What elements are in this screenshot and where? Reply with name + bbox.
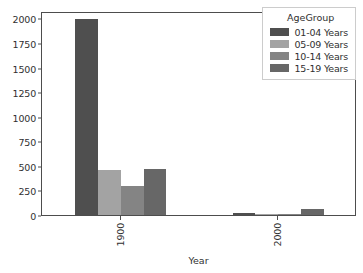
bar <box>144 169 167 215</box>
legend-title: AgeGroup <box>270 12 349 23</box>
y-axis: 025050075010001250150017502000 <box>0 12 41 216</box>
chart-figure: 025050075010001250150017502000 19002000 … <box>0 0 363 273</box>
y-tick-label: 250 <box>18 186 36 197</box>
bar <box>255 214 278 215</box>
x-tick-label: 1900 <box>115 223 126 246</box>
y-tick-label: 500 <box>18 161 36 172</box>
legend-item: 01-04 Years <box>270 26 349 38</box>
y-tick-label: 750 <box>18 137 36 148</box>
y-tick-label: 1250 <box>13 88 36 99</box>
y-tick-label: 0 <box>30 211 36 222</box>
y-tick-label: 2000 <box>13 14 36 25</box>
legend-item: 10-14 Years <box>270 50 349 62</box>
bar <box>278 214 301 215</box>
legend-item-label: 01-04 Years <box>295 27 349 38</box>
bar <box>301 209 324 215</box>
legend-swatch-icon <box>270 52 289 60</box>
legend-item: 15-19 Years <box>270 62 349 74</box>
legend-swatch-icon <box>270 64 289 72</box>
legend-item-label: 10-14 Years <box>295 51 349 62</box>
bar <box>233 213 256 215</box>
x-tick-label: 2000 <box>272 223 283 246</box>
bar <box>98 170 121 215</box>
bar <box>121 186 144 215</box>
x-axis-title: Year <box>41 255 356 266</box>
legend-rows: 01-04 Years05-09 Years10-14 Years15-19 Y… <box>270 26 349 74</box>
legend-item-label: 15-19 Years <box>295 63 349 74</box>
legend-swatch-icon <box>270 40 289 48</box>
x-tick-mark <box>120 216 121 220</box>
x-tick-mark <box>277 216 278 220</box>
legend-item-label: 05-09 Years <box>295 39 349 50</box>
y-tick-label: 1000 <box>13 112 36 123</box>
bar <box>75 19 98 215</box>
x-axis: 19002000 <box>41 216 356 256</box>
y-tick-label: 1750 <box>13 38 36 49</box>
legend-swatch-icon <box>270 28 289 36</box>
chart-legend: AgeGroup 01-04 Years05-09 Years10-14 Yea… <box>262 7 357 80</box>
legend-item: 05-09 Years <box>270 38 349 50</box>
y-tick-label: 1500 <box>13 63 36 74</box>
